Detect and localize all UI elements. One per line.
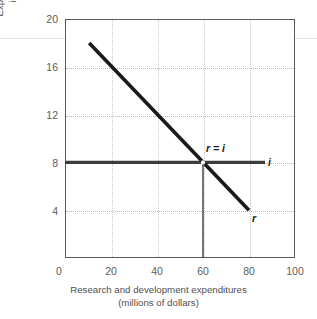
ytick-label-4: 4 [18,206,58,216]
gridline-x-40 [158,20,159,257]
xtick-label-40: 40 [137,266,177,276]
annotation-equilibrium: r = i [206,143,225,154]
gridline-x-80 [250,20,251,257]
ytick-label-16: 16 [18,62,58,72]
annotation-r-curve: r [252,213,256,224]
gridline-y-4 [66,211,294,212]
x-axis-title: Research and development expenditures (m… [0,283,317,309]
y-axis-title-line1: Expected rate of return, r, and [0,0,5,16]
y-axis-title: Expected rate of return, r, and interest… [0,0,19,48]
ytick-label-20: 20 [18,14,58,24]
plot-area [65,19,295,258]
x-axis-title-line1: Research and development expenditures [70,284,247,295]
xtick-label-20: 20 [91,266,131,276]
ytick-label-12: 12 [18,110,58,120]
xtick-label-0: 0 [39,266,79,276]
gridline-y-16 [66,68,294,69]
ytick-label-8: 8 [18,158,58,168]
xtick-label-60: 60 [183,266,223,276]
gridline-x-20 [112,20,113,257]
gridline-x-60 [204,20,205,257]
gridline-y-8 [66,163,294,164]
annotation-i-curve: i [268,157,271,168]
y-axis-title-line2: interest rate, i (percent) [7,0,20,48]
gridline-y-12 [66,116,294,117]
chart-root: 20 16 12 8 4 0 20 40 60 80 100 r = i i r… [0,0,317,319]
xtick-label-80: 80 [229,266,269,276]
xtick-label-100: 100 [275,266,315,276]
x-axis-title-line2: (millions of dollars) [0,296,317,309]
